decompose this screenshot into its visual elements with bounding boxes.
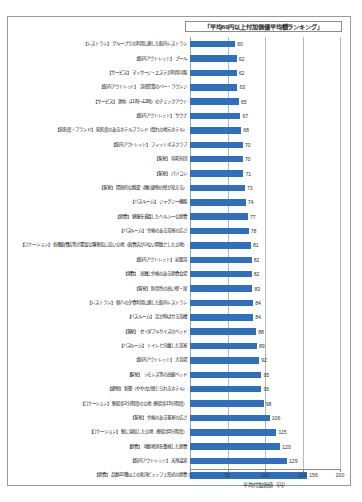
bar-value-label: 60 [237, 41, 243, 47]
x-tick-label-0: 0 [189, 472, 192, 478]
bar-row: 【バスルーム】 ジャグジー機能74 [190, 195, 340, 209]
bar [190, 113, 240, 120]
gridline-200 [340, 37, 341, 469]
bar-category-label: 【館内アウトレット】 岩盤浴 [134, 257, 187, 262]
bar [190, 127, 241, 134]
x-tick-label-50: 50 [225, 472, 231, 478]
bar-row: 【館内アウトレット】 サウナ67 [190, 109, 340, 123]
bar-category-label: 【客室】 防音性の高い壁・扉 [134, 286, 187, 291]
bar-value-label: 95 [263, 372, 269, 378]
bar [190, 372, 261, 379]
bar [190, 386, 261, 393]
bar-value-label: 89 [259, 343, 265, 349]
bar-value-label: 63 [239, 84, 245, 90]
bar [190, 228, 249, 235]
bar [190, 156, 243, 163]
bar-row: 【ロケーション】 駅徒歩3分程度の立地（駅徒歩15分程度）98 [190, 396, 340, 410]
bar-value-label: 67 [242, 113, 248, 119]
bar-row: 【客室】 羽毛布団70 [190, 152, 340, 166]
bar [190, 185, 245, 192]
bar-row: 【客室】 シモンズ等の高級ベッド95 [190, 368, 340, 382]
bar-value-label: 68 [243, 127, 249, 133]
bar-value-label: 95 [263, 386, 269, 392]
bar [190, 98, 239, 105]
bar-row: 【館内アウトレット】 深夜営業のバー・ラウンジ63 [190, 80, 340, 94]
bar [190, 142, 243, 149]
bar-row: 【館内アウトレット】 天然温泉129 [190, 454, 340, 468]
bar-value-label: 70 [245, 142, 251, 148]
bar-category-label: 【客室】 開放的な眺望（隣の建物の壁が見える） [99, 185, 187, 190]
bar-value-label: 84 [255, 300, 261, 306]
bar-value-label: 82 [254, 271, 260, 277]
bar-category-label: 【館内アウトレット】 サウナ [134, 113, 187, 118]
bar [190, 199, 246, 206]
bar-category-label: 【朝食】 品数20種以上の和洋ビュッフェ形式の朝食 [94, 473, 187, 478]
bar-row: 【館内アウトレット】 フィットネスクラブ70 [190, 138, 340, 152]
bar-category-label: 【客室】 シモンズ等の高級ベッド [127, 372, 187, 377]
bar-category-label: 【バスルーム】 余裕のある浴室の広さ [119, 228, 187, 233]
bar-rows: 【レストラン】 グループでの利用に適した館内レストラン60【館内アウトレット】 … [190, 37, 340, 469]
bar-category-label: 【館内アウトレット】 プール [134, 56, 187, 61]
bar-row: 【建物】 新築（やや古び感じられるホテル）95 [190, 382, 340, 396]
bar-value-label: 70 [245, 156, 251, 162]
bar-value-label: 62 [239, 70, 245, 76]
bar [190, 84, 237, 91]
bar-category-label: 【客室】 パソコン [154, 171, 187, 176]
bar [190, 429, 276, 436]
bar-category-label: 【知名度・ブランド】 知名度のあるホテルブランド（憧れの地元ホテル） [55, 128, 187, 133]
bar-category-label: 【館内アウトレット】 フィットネスクラブ [111, 142, 187, 147]
bar-value-label: 78 [251, 228, 257, 234]
bar [190, 257, 252, 264]
bar-category-label: 【サービス】 マッサージ・エステが利用可能 [107, 70, 187, 75]
bar-value-label: 98 [266, 401, 272, 407]
plot-area: 【レストラン】 グループでの利用に適した館内レストラン60【館内アウトレット】 … [190, 37, 340, 469]
bar-category-label: 【客室】 羽毛布団 [154, 157, 187, 162]
bar [190, 70, 237, 77]
bar-category-label: 【館内アウトレット】 深夜営業のバー・ラウンジ [99, 85, 187, 90]
bar-value-label: 71 [245, 171, 251, 177]
bar-row: 【館内アウトレット】 岩盤浴82 [190, 253, 340, 267]
bar-value-label: 81 [253, 242, 259, 248]
bar-category-label: 【ロケーション】 駅徒歩3分程度の立地（駅徒歩15分程度） [80, 401, 187, 406]
bar-value-label: 82 [254, 257, 260, 263]
bar-row: 【客室】 セミダブルサイズのベッド88 [190, 325, 340, 339]
bar [190, 213, 248, 220]
bar-value-label: 74 [248, 199, 254, 205]
bar-category-label: 【建物】 新築（やや古び感じられるホテル） [107, 387, 187, 392]
bar-value-label: 129 [289, 458, 298, 464]
chart-frame: 「平均60円以上付加価値平均額ランキング」 【レストラン】 グループでの利用に適… [7, 16, 351, 486]
bar [190, 41, 235, 48]
bar [190, 285, 252, 292]
bar-row: 【サービス】 遅め（11時～12時）のチェックアウト65 [190, 95, 340, 109]
bar [190, 170, 243, 177]
bar-category-label: 【サービス】 遅め（11時～12時）のチェックアウト [93, 99, 187, 104]
x-tick-label-150: 150 [298, 472, 306, 478]
bar-row: 【館内アウトレット】 大浴場92 [190, 353, 340, 367]
bar-value-label: 115 [278, 429, 286, 435]
bar-value-label: 73 [247, 185, 253, 191]
bar [190, 55, 237, 62]
bar-row: 【サービス】 マッサージ・エステが利用可能62 [190, 66, 340, 80]
bar-row: 【客室】 パソコン71 [190, 166, 340, 180]
bar [190, 300, 253, 307]
bar-row: 【朝食】 健康を意識したヘルシーな朝食77 [190, 210, 340, 224]
bar-category-label: 【朝食】 高層に余裕のある朝食会場 [123, 272, 187, 277]
bar-category-label: 【館内アウトレット】 大浴場 [134, 358, 187, 363]
bar [190, 242, 251, 249]
bar-category-label: 【レストラン】 個人の夕食利用に適した館内レストラン [87, 300, 187, 305]
bar-value-label: 120 [282, 444, 291, 450]
bar-row: 【客室】 防音性の高い壁・扉83 [190, 281, 340, 295]
bar [190, 314, 253, 321]
bar-value-label: 83 [254, 286, 260, 292]
bar-row: 【客室】 開放的な眺望（隣の建物の壁が見える）73 [190, 181, 340, 195]
bar-category-label: 【ロケーション】 各種飲食店等が豊富な繁華街に近い立地（飲食店が少ない閑散とした… [17, 243, 187, 248]
bar-value-label: 106 [272, 415, 281, 421]
bar [190, 343, 257, 350]
bar-value-label: 88 [258, 329, 264, 335]
x-axis-title: 平均付加価値（円） [190, 481, 340, 488]
x-tick-label-200: 200 [336, 472, 344, 478]
bar-row: 【ロケーション】 駅に直結した立地（駅徒歩5分程度）115 [190, 425, 340, 439]
bar-category-label: 【客室】 セミダブルサイズのベッド [123, 329, 187, 334]
bar-row: 【バスルーム】 足が伸ばせる浴槽84 [190, 310, 340, 324]
bar-row: 【バスルーム】 余裕のある浴室の広さ78 [190, 224, 340, 238]
